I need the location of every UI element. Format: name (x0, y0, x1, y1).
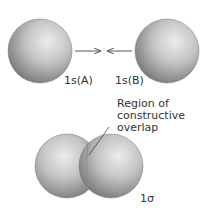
orbital-a-label: 1s(A) (64, 75, 93, 86)
orbital-overlap-diagram: 1s(A) 1s(B) Region of constructive overl… (0, 0, 210, 211)
bond-label: 1σ (140, 193, 154, 204)
orbital-b-label: 1s(B) (115, 75, 144, 86)
bonding-orbital-shape (35, 134, 143, 198)
orbital-sphere-b (135, 19, 199, 83)
overlap-annotation: Region of constructive overlap (117, 98, 185, 134)
annotation-line-3: overlap (117, 122, 185, 134)
orbital-sphere-a (8, 19, 72, 83)
